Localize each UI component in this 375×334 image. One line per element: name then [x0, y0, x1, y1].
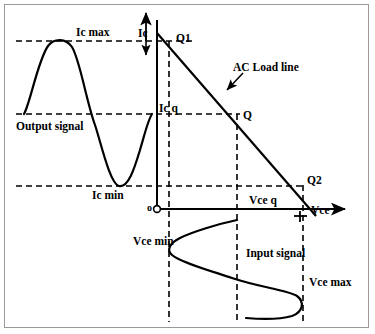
vce-min-label: Vce min: [133, 236, 174, 248]
output-signal-label: Output signal: [16, 121, 83, 133]
q1-label: Q1: [176, 33, 191, 45]
ac-load-line-label: AC Load line: [233, 62, 299, 74]
vce-q-label: Vce q: [249, 195, 277, 207]
origin-marker: [154, 206, 161, 213]
q-label: Q: [243, 110, 252, 122]
y-axis-label: Ic: [138, 28, 148, 40]
output-signal-waveform: [24, 40, 152, 186]
x-axis-label: Vce: [311, 205, 330, 217]
ic-q-label: Ic q: [159, 103, 178, 115]
vce-plus-sign: [294, 211, 307, 222]
input-signal-label: Input signal: [246, 248, 305, 260]
input-signal-waveform: [169, 220, 302, 319]
vce-max-label: Vce max: [309, 277, 351, 289]
origin-label: o: [147, 203, 152, 213]
ac-load-line-figure: Ic max Ic Q1 AC Load line Ic q Q Output …: [0, 0, 375, 334]
ac-load-line-pointer: [227, 73, 243, 90]
q2-label: Q2: [307, 175, 322, 187]
ic-min-label: Ic min: [92, 190, 124, 202]
ic-max-label: Ic max: [76, 27, 110, 39]
